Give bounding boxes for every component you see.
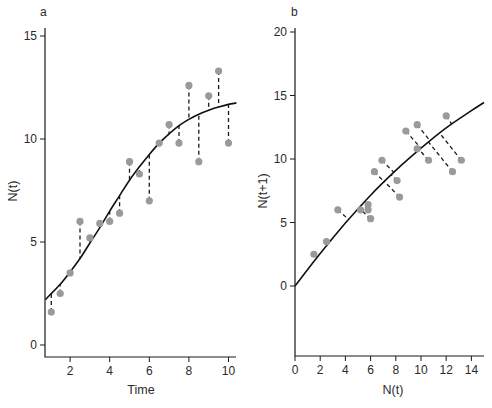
panel-a-label: a	[40, 5, 47, 19]
x-tick-label: 2	[67, 364, 74, 378]
data-point	[393, 177, 400, 184]
y-tick-label: 0	[280, 279, 287, 293]
x-tick-label: 6	[367, 363, 374, 377]
y-tick-label: 15	[24, 29, 38, 43]
data-point	[146, 197, 153, 204]
panel-b-x-ticks: 02468101214	[292, 356, 479, 377]
panel-b-y-ticks: 05101520	[274, 25, 295, 293]
y-tick-label: 10	[24, 132, 38, 146]
data-point	[156, 140, 163, 147]
panel-a-x-axis-label: Time	[127, 383, 154, 397]
panel-b-label: b	[291, 5, 298, 19]
y-tick-label: 10	[274, 152, 288, 166]
data-point	[205, 92, 212, 99]
panel-a-x-ticks: 246810	[67, 357, 236, 378]
data-point	[195, 158, 202, 165]
data-point	[57, 290, 64, 297]
panel-a-axes	[45, 28, 236, 357]
y-tick-label: 0	[30, 338, 37, 352]
x-tick-label: 10	[222, 364, 236, 378]
data-point	[166, 121, 173, 128]
data-point	[185, 82, 192, 89]
panel-a-data-points	[48, 67, 232, 315]
x-tick-label: 0	[292, 363, 299, 377]
data-point	[458, 157, 465, 164]
figure: a 051015 246810 Time N(t) b 05101520 024…	[0, 0, 492, 408]
panel-b-residuals	[314, 116, 461, 257]
y-tick-label: 5	[30, 235, 37, 249]
residual-line	[429, 142, 453, 172]
residual-line	[440, 133, 462, 160]
x-tick-label: 4	[106, 364, 113, 378]
data-point	[136, 170, 143, 177]
x-tick-label: 6	[146, 364, 153, 378]
panel-b-return-map: b 05101520 02468101214 N(t) N(t+1)	[256, 5, 484, 397]
x-tick-label: 8	[392, 363, 399, 377]
data-point	[449, 168, 456, 175]
data-point	[323, 238, 330, 245]
x-tick-label: 8	[186, 364, 193, 378]
data-point	[396, 194, 403, 201]
data-point	[310, 251, 317, 258]
y-tick-label: 20	[274, 25, 288, 39]
data-point	[126, 158, 133, 165]
data-point	[67, 269, 74, 276]
data-point	[371, 168, 378, 175]
x-tick-label: 4	[342, 363, 349, 377]
panel-a-fitted-curve	[45, 103, 236, 300]
data-point	[402, 127, 409, 134]
x-tick-label: 2	[317, 363, 324, 377]
data-point	[96, 220, 103, 227]
panel-b-x-axis-label: N(t)	[383, 383, 404, 397]
panel-a-time-series: a 051015 246810 Time N(t)	[6, 5, 236, 397]
data-point	[414, 145, 421, 152]
data-point	[443, 112, 450, 119]
data-point	[425, 157, 432, 164]
x-tick-label: 12	[440, 363, 454, 377]
data-point	[414, 121, 421, 128]
y-tick-label: 15	[274, 89, 288, 103]
panel-a-residuals	[51, 71, 228, 312]
data-point	[106, 218, 113, 225]
data-point	[334, 206, 341, 213]
y-tick-label: 5	[280, 216, 287, 230]
data-point	[378, 157, 385, 164]
data-point	[364, 206, 371, 213]
data-point	[215, 67, 222, 74]
panel-b-axes	[295, 28, 484, 356]
data-point	[76, 218, 83, 225]
data-point	[48, 308, 55, 315]
data-point	[225, 140, 232, 147]
x-tick-label: 14	[465, 363, 479, 377]
panel-b-y-axis-label: N(t+1)	[256, 173, 270, 208]
x-tick-label: 10	[414, 363, 428, 377]
data-point	[116, 210, 123, 217]
panel-b-fitted-curve	[295, 103, 484, 287]
data-point	[357, 206, 364, 213]
panel-a-y-ticks: 051015	[24, 29, 45, 352]
data-point	[86, 234, 93, 241]
data-point	[175, 140, 182, 147]
data-point	[367, 215, 374, 222]
panel-a-y-axis-label: N(t)	[6, 181, 20, 202]
